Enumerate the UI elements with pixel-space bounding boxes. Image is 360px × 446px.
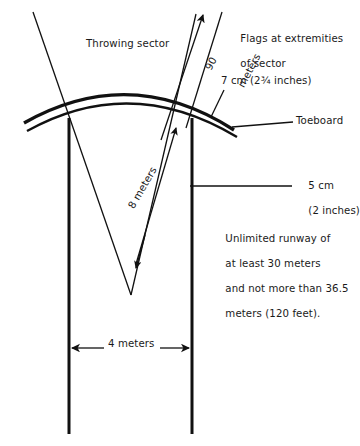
label-runway-line3: and not more than 36.5 (225, 283, 348, 294)
sector-boundary-left (33, 12, 131, 295)
label-toeboard: Toeboard (296, 115, 343, 127)
label-5cm-line2: (2 inches) (308, 205, 360, 216)
label-90-value: 90 (203, 34, 231, 72)
label-flags-line1: Flags at extremities (240, 33, 343, 44)
label-runway-line2: at least 30 meters (225, 258, 320, 269)
label-90-unit: meters (236, 52, 264, 90)
toeboard-inner-arc (24, 95, 234, 130)
leader-line-toeboard (232, 122, 293, 127)
dimension-arrow-8-meters-down (136, 235, 145, 268)
label-5cm-line1: 5 cm (308, 180, 334, 191)
label-runway-line4: meters (120 feet). (225, 308, 320, 319)
label-unlimited-runway: Unlimited runway of at least 30 meters a… (212, 221, 349, 333)
label-throwing-sector: Throwing sector (86, 38, 169, 50)
leader-line-7cm (211, 90, 224, 117)
throwing-sector-diagram: Throwing sector Flags at extremities of … (0, 0, 360, 446)
label-runway-width: 4 meters (108, 338, 154, 350)
label-runway-line1: Unlimited runway of (225, 233, 330, 244)
